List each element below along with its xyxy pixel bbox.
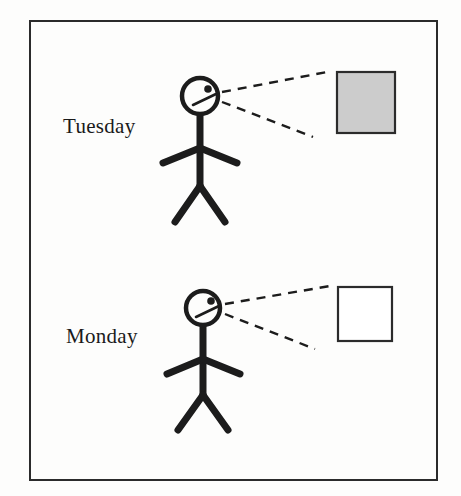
- gray-square: [337, 72, 395, 133]
- figure-eye-tuesday: [204, 85, 212, 93]
- diagram-svg: Tuesday Monday: [0, 0, 461, 496]
- day-label-tuesday: Tuesday: [63, 114, 136, 138]
- day-label-monday: Monday: [66, 324, 138, 348]
- diagram-canvas: Tuesday Monday: [0, 0, 461, 496]
- white-square: [338, 287, 392, 341]
- figure-eye-monday: [207, 297, 215, 305]
